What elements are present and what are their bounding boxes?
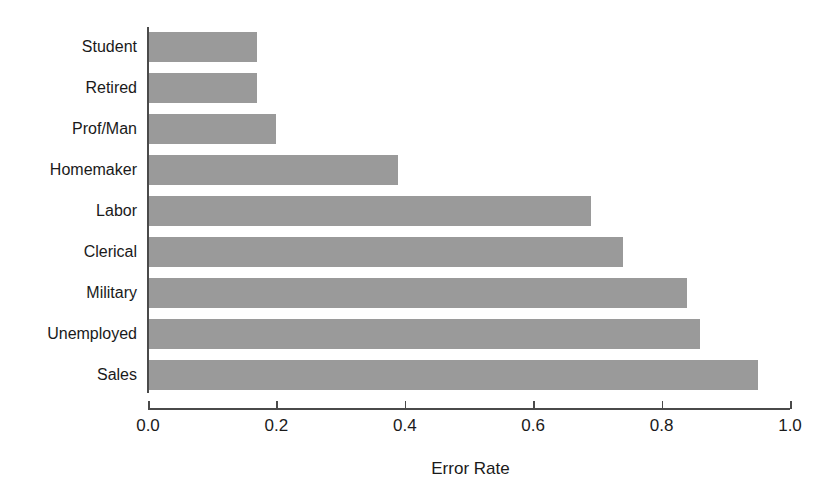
bar-row [148,355,790,396]
x-axis-tick-label: 0.8 [632,416,692,436]
y-axis-label-military: Military [0,285,137,301]
x-axis-tick [405,401,407,409]
x-axis-line [148,408,790,410]
y-axis-label-unemployed: Unemployed [0,326,137,342]
x-axis-tick-label: 0.0 [118,416,178,436]
x-axis-tick-label: 0.6 [503,416,563,436]
x-axis-tick-label: 0.4 [375,416,435,436]
bar-military [148,278,687,308]
bar-homemaker [148,155,398,185]
x-axis-tick [148,401,150,409]
y-axis-label-labor: Labor [0,203,137,219]
x-axis-title: Error Rate [0,459,837,479]
x-axis-title-text: Error Rate [431,459,509,479]
y-axis-label-prof-man: Prof/Man [0,121,137,137]
y-axis-label-sales: Sales [0,367,137,383]
bar-row [148,191,790,232]
bar-labor [148,196,591,226]
y-axis-label-retired: Retired [0,80,137,96]
y-axis-label-student: Student [0,39,137,55]
plot-area [148,27,790,408]
bar-prof-man [148,114,276,144]
bar-row [148,68,790,109]
bar-row [148,232,790,273]
bar-row [148,150,790,191]
x-axis-tick [276,401,278,409]
bar-row [148,273,790,314]
x-axis-tick [662,401,664,409]
y-axis-category-labels: Student Retired Prof/Man Homemaker Labor… [0,27,137,408]
bar-row [148,314,790,355]
bar-sales [148,360,758,390]
y-axis-line [147,27,149,393]
y-axis-label-clerical: Clerical [0,244,137,260]
x-axis-tick-label: 0.2 [246,416,306,436]
bar-clerical [148,237,623,267]
x-axis-tick [533,401,535,409]
bar-unemployed [148,319,700,349]
x-axis-tick [790,401,792,409]
bar-chart: Student Retired Prof/Man Homemaker Labor… [0,0,837,494]
bar-row [148,109,790,150]
y-axis-label-homemaker: Homemaker [0,162,137,178]
bar-row [148,27,790,68]
bar-retired [148,73,257,103]
x-axis-tick-label: 1.0 [760,416,820,436]
bar-student [148,32,257,62]
